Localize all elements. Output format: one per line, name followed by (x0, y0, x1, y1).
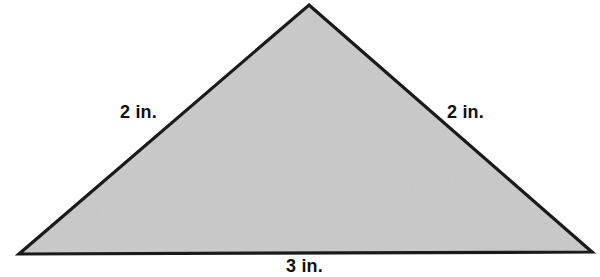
base-side-length-label: 3 in. (286, 257, 323, 275)
left-side-length-label: 2 in. (120, 103, 157, 121)
triangle-figure: 2 in. 2 in. 3 in. (0, 0, 600, 277)
triangle-shape (0, 0, 600, 277)
right-side-length-label: 2 in. (447, 103, 484, 121)
triangle-texture-overlay (19, 5, 592, 254)
